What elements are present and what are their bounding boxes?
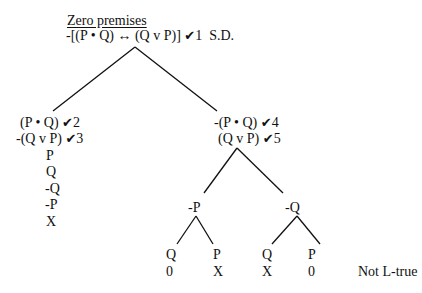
left-atom: Q — [46, 164, 56, 180]
sub-branch-label-negq: -Q — [285, 200, 300, 216]
title-text: Zero premises — [67, 13, 147, 28]
branch-line-negp-right — [196, 216, 213, 244]
branch-line-root-right — [135, 47, 217, 111]
leaf-mark: 0 — [308, 264, 315, 280]
branch-line-negq-right — [297, 216, 320, 244]
left-atom: -Q — [45, 181, 60, 197]
check-icon: ✔ — [184, 28, 195, 43]
line-number: 4 — [272, 115, 279, 130]
line-number: 3 — [76, 131, 83, 146]
left-formula-2: -(Q v P) — [16, 131, 62, 146]
check-icon: ✔ — [261, 115, 272, 130]
line-number: 5 — [274, 131, 281, 146]
leaf-mark: X — [213, 264, 223, 280]
left-line-2: -(Q v P) ✔3 — [16, 131, 83, 147]
branch-line-root-left — [53, 47, 135, 111]
check-icon: ✔ — [263, 131, 274, 146]
verdict-label: Not L-true — [358, 264, 417, 280]
branch-line-right-right — [237, 148, 283, 193]
leaf-atom: Q — [166, 247, 176, 263]
right-line-1: -(P • Q) ✔4 — [214, 115, 279, 131]
check-icon: ✔ — [62, 115, 73, 130]
check-icon: ✔ — [65, 131, 76, 146]
branch-line-negp-left — [177, 216, 196, 244]
right-line-2: (Q v P) ✔5 — [218, 131, 281, 147]
leaf-atom: P — [213, 247, 221, 263]
left-line-1: (P • Q) ✔2 — [20, 115, 80, 131]
left-atom: P — [46, 148, 54, 164]
leaf-mark: X — [262, 264, 272, 280]
branch-line-negq-left — [272, 216, 297, 244]
tree-title: Zero premises​ — [67, 13, 177, 29]
right-formula-2: (Q v P) — [218, 131, 259, 146]
sub-branch-label-negp: -P — [188, 200, 200, 216]
left-closed-mark: X — [46, 214, 56, 230]
line-number: 2 — [73, 115, 80, 130]
leaf-atom: P — [308, 247, 316, 263]
root-formula: -[(P • Q) ↔ (Q v P)] — [66, 28, 181, 43]
root-formula-line: -[(P • Q) ↔ (Q v P)] ✔1 S.D. — [66, 28, 234, 44]
leaf-atom: Q — [262, 247, 272, 263]
branch-line-right-left — [204, 148, 237, 193]
leaf-mark: 0 — [166, 264, 173, 280]
left-formula-1: (P • Q) — [20, 115, 59, 130]
left-atom: -P — [45, 197, 57, 213]
root-note: S.D. — [209, 28, 234, 43]
right-formula-1: -(P • Q) — [214, 115, 257, 130]
root-line-number: 1 — [195, 28, 202, 43]
